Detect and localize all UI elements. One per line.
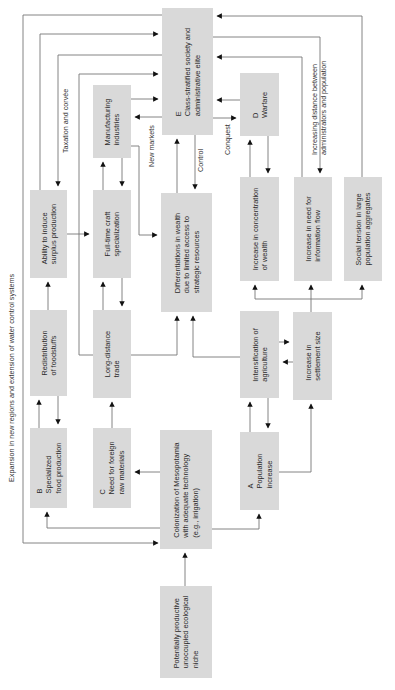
- node-text: of wealth: [260, 188, 269, 271]
- node-text: Manufacturing: [103, 98, 112, 145]
- conquest-text: Conquest: [223, 124, 232, 155]
- node-text: raw materials: [117, 442, 126, 495]
- control-text: Control: [196, 149, 205, 172]
- node-colonization: Colonization of Mesopotamiawith adequate…: [160, 430, 212, 549]
- node-foreign-raw-materials: CNeed for foreignraw materials: [93, 428, 131, 508]
- node-text: industries: [112, 98, 121, 145]
- node-specialized-food: BSpecializedfood production: [30, 428, 67, 508]
- node-ecological-niche: Potentially productiveunoccupied ecologi…: [160, 586, 212, 678]
- node-text: Colonization of Mesopotamia: [172, 442, 181, 537]
- node-text: Population: [255, 454, 264, 489]
- node-social-tension: Social tension in largepopulation aggreg…: [344, 177, 382, 281]
- node-text: (e.g., irrigation): [191, 442, 200, 537]
- node-text: niche: [191, 596, 200, 669]
- taxation-text: Taxation and corvée: [61, 89, 70, 153]
- node-long-distance-trade: Long-distancetrade: [93, 310, 131, 398]
- node-text: strategic resources: [191, 212, 200, 292]
- node-intensification: Intensification ofagriculture: [240, 311, 279, 398]
- node-text: Increase in need for: [304, 196, 313, 261]
- node-information-flow: Increase in need forinformation flow: [294, 177, 332, 281]
- node-text: food production: [53, 443, 62, 494]
- node-text: Need for foreign: [107, 442, 116, 495]
- node-text: Warfare: [260, 91, 269, 117]
- expansion-label-text: Expansion in new regions and extension o…: [7, 274, 16, 482]
- node-letter-c: C: [98, 442, 107, 495]
- node-text: Intensification of: [250, 328, 259, 381]
- node-differentiations-wealth: Differentiations in wealthdue to limited…: [161, 193, 212, 312]
- control-label: Control: [196, 149, 205, 172]
- node-text: settlement size: [313, 331, 322, 380]
- distance-text-1: Increasing distance between: [310, 61, 319, 155]
- node-text: increase: [264, 454, 273, 489]
- node-letter-b: B: [34, 443, 43, 494]
- node-settlement-size: Increase insettlement size: [293, 312, 332, 400]
- node-text: information flow: [313, 196, 322, 261]
- node-text: due to limited access to: [182, 212, 191, 292]
- node-text: Class-stratified society and: [183, 27, 192, 115]
- node-fulltime-craft: Full-time craftspecialization: [93, 190, 131, 278]
- node-text: agriculture: [260, 328, 269, 381]
- node-text: with adequate technology: [181, 442, 190, 537]
- node-text: trade: [112, 331, 121, 377]
- node-text: specialization: [112, 212, 121, 257]
- node-concentration-wealth: Increase in concentrationof wealth: [240, 177, 279, 281]
- node-text: Social tension in large: [354, 192, 363, 265]
- node-text: population aggregates: [363, 192, 372, 265]
- node-text: Ability to induce: [39, 204, 48, 264]
- node-text: Full-time craft: [103, 212, 112, 257]
- node-letter-a: A: [245, 454, 254, 489]
- node-redistribution: Redistributionof foodstuffs: [30, 310, 67, 396]
- node-population-increase: APopulationincrease: [240, 432, 279, 510]
- node-warfare: DWarfare: [240, 73, 279, 136]
- node-ability-surplus: Ability to inducesurplus production: [30, 190, 67, 278]
- node-text: of foodstuffs: [49, 330, 58, 375]
- conquest-label: Conquest: [223, 124, 232, 155]
- taxation-label: Taxation and corvée: [61, 89, 70, 153]
- node-manufacturing-industries: Manufacturingindustries: [93, 85, 131, 158]
- node-text: Redistribution: [39, 330, 48, 375]
- node-text: Differentiations in wealth: [172, 212, 181, 292]
- distance-label: Increasing distance between administrato…: [310, 61, 328, 155]
- expansion-label: Expansion in new regions and extension o…: [7, 274, 16, 482]
- node-text: Specialized: [44, 443, 53, 494]
- node-text: unoccupied ecological: [181, 596, 190, 669]
- node-letter-d: D: [250, 91, 259, 117]
- node-text: Increase in: [303, 331, 312, 380]
- node-text: administrative elite: [192, 27, 201, 115]
- node-letter-e: E: [173, 27, 182, 115]
- node-text: Potentially productive: [172, 596, 181, 669]
- node-class-stratified-society: EClass-stratified society andadministrat…: [162, 8, 213, 135]
- node-text: Increase in concentration: [250, 188, 259, 271]
- distance-text-2: administrators and population: [319, 61, 328, 155]
- new-markets-text: New markets: [147, 125, 156, 167]
- new-markets-label: New markets: [147, 125, 156, 167]
- node-text: surplus production: [49, 204, 58, 264]
- node-text: Long-distance: [103, 331, 112, 377]
